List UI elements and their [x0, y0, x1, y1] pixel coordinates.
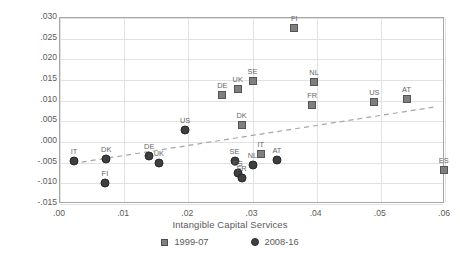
data-point-label: ES — [439, 156, 449, 165]
data-point-circle — [154, 158, 163, 167]
data-point-square — [249, 77, 257, 85]
data-point-label: UK — [154, 149, 164, 158]
gridline-vertical — [60, 18, 61, 202]
y-axis-tick-label: .010 — [13, 95, 57, 104]
y-axis-tick-label: .020 — [13, 53, 57, 62]
data-point-label: US — [180, 116, 190, 125]
data-point-label: AT — [402, 85, 411, 94]
data-point-label: NL — [248, 151, 257, 160]
scatter-chart-figure: Total Factor Productivity .030.025.020.0… — [0, 0, 460, 261]
data-point-label: UK — [233, 75, 243, 84]
y-axis-tick-label: -.010 — [13, 177, 57, 186]
x-axis-tick-label: .06 — [424, 208, 460, 218]
data-point-square — [238, 121, 246, 129]
gridline-horizontal — [60, 204, 443, 205]
data-point-circle — [272, 155, 281, 164]
plot-area: FISENLUKDEUSATFRDKITESUSITDKDEUKSEESFRNL… — [59, 17, 444, 203]
data-point-circle — [145, 152, 154, 161]
gridline-horizontal — [60, 101, 443, 102]
data-point-square — [370, 98, 378, 106]
data-point-square — [218, 91, 226, 99]
y-axis-tick-label: .005 — [13, 115, 57, 124]
data-point-circle — [100, 178, 109, 187]
data-point-label: DK — [101, 145, 111, 154]
data-point-label: DE — [217, 81, 227, 90]
data-point-circle — [248, 160, 257, 169]
data-point-label: AT — [272, 146, 281, 155]
data-point-label: IT — [71, 147, 78, 156]
y-axis-tick-label: -.015 — [13, 198, 57, 207]
x-axis-tick-label: .05 — [360, 208, 400, 218]
y-axis-tick-label: -.005 — [13, 157, 57, 166]
data-point-circle — [181, 125, 190, 134]
gridline-vertical — [253, 18, 254, 202]
gridline-vertical — [188, 18, 189, 202]
data-point-label: DK — [236, 111, 246, 120]
gridline-horizontal — [60, 183, 443, 184]
data-point-label: FR — [307, 91, 317, 100]
gridline-vertical — [317, 18, 318, 202]
gridline-horizontal — [60, 142, 443, 143]
y-axis-tick-label: .030 — [13, 12, 57, 21]
x-axis-title: Intangible Capital Services — [0, 219, 460, 230]
data-point-circle — [70, 156, 79, 165]
data-point-label: NL — [309, 68, 318, 77]
data-point-square — [310, 78, 318, 86]
y-axis-tick-label: .000 — [13, 136, 57, 145]
chart-legend: 1999-07 2008-16 — [0, 237, 460, 247]
y-axis-tick-label: .025 — [13, 33, 57, 42]
data-point-circle — [102, 155, 111, 164]
square-marker-icon — [161, 239, 168, 246]
gridline-horizontal — [60, 59, 443, 60]
x-axis-tick-label: .01 — [103, 208, 143, 218]
x-axis-tick-label: .03 — [232, 208, 272, 218]
data-point-label: FI — [291, 14, 298, 23]
legend-item-1999-07: 1999-07 — [161, 237, 208, 247]
gridline-vertical — [381, 18, 382, 202]
data-point-label: IT — [258, 140, 265, 149]
circle-marker-icon — [251, 238, 259, 246]
data-point-square — [403, 95, 411, 103]
data-point-label: FR — [237, 164, 247, 173]
data-point-label: SE — [248, 67, 258, 76]
gridline-vertical — [124, 18, 125, 202]
gridline-vertical — [445, 18, 446, 202]
gridline-horizontal — [60, 121, 443, 122]
data-point-label: SE — [230, 147, 240, 156]
legend-label: 2008-16 — [265, 237, 299, 247]
gridline-horizontal — [60, 18, 443, 19]
data-point-label: US — [369, 88, 379, 97]
data-point-label: FI — [102, 169, 109, 178]
x-axis-tick-label: .00 — [39, 208, 79, 218]
data-point-square — [257, 150, 265, 158]
data-point-square — [308, 101, 316, 109]
gridline-horizontal — [60, 39, 443, 40]
data-point-circle — [237, 174, 246, 183]
data-point-square — [234, 85, 242, 93]
data-point-square — [290, 24, 298, 32]
x-axis-tick-label: .02 — [167, 208, 207, 218]
data-point-square — [440, 166, 448, 174]
legend-label: 1999-07 — [174, 237, 208, 247]
x-axis-tick-label: .04 — [296, 208, 336, 218]
y-axis-tick-label: .015 — [13, 74, 57, 83]
legend-item-2008-16: 2008-16 — [251, 237, 299, 247]
